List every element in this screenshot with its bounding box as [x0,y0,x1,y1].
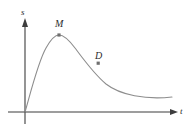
point-marker-D [97,62,100,65]
x-axis-arrowhead [170,109,178,115]
curve-path [25,35,172,112]
x-axis [8,109,178,115]
y-axis [22,18,28,124]
figure-canvas [0,0,196,130]
x-axis-label: t [180,107,183,116]
y-axis-label: s [21,8,25,17]
point-marker-M [57,33,60,36]
point-label-M: M [55,19,63,29]
curve-figure: s t M D [0,0,196,130]
point-label-D: D [95,51,102,61]
y-axis-arrowhead [22,18,28,27]
